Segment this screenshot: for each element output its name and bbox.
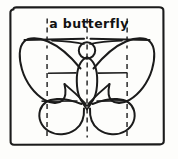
- upper-wing-left: [20, 38, 81, 103]
- sketch-canvas: a butterfly: [0, 0, 178, 159]
- butterfly-sketch-illustration: a butterfly: [0, 0, 178, 159]
- caption-label: a butterfly: [49, 16, 129, 31]
- lower-wing-right: [90, 99, 135, 134]
- antenna-left: [52, 41, 84, 44]
- antenna-right: [90, 41, 122, 44]
- lower-wing-left: [39, 99, 84, 134]
- upper-wing-right: [94, 38, 155, 103]
